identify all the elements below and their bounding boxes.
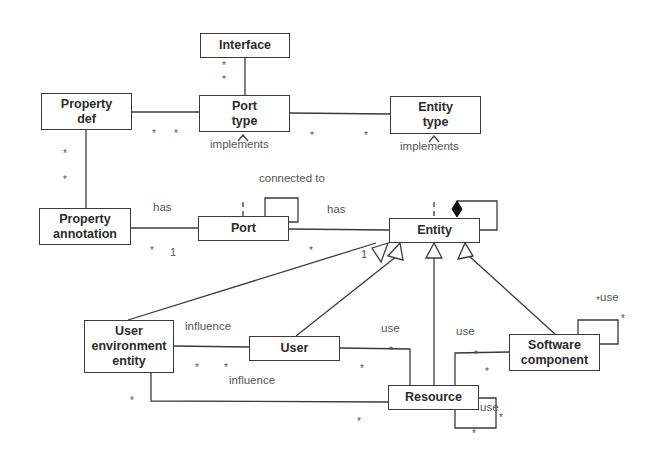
class-user: User [249, 336, 340, 361]
label-entity-type-implements: implements [400, 140, 459, 152]
label-influence-user: influence [185, 320, 231, 332]
label-port-type-implements: implements [210, 138, 269, 150]
mult-annotation-port-one: 1 [170, 246, 176, 258]
label-user-use: use [381, 322, 400, 334]
class-interface: Interface [200, 33, 290, 58]
label-port-entity-has: has [327, 203, 346, 215]
mult-interface-2: * [222, 74, 226, 85]
mult-porttype-entitytype-2: * [364, 130, 368, 141]
mult-propdef-annotation-2: * [63, 174, 67, 185]
class-port-type: Port type [199, 95, 290, 132]
mult-software-resource-2: * [485, 366, 489, 377]
uml-diagram: Interface Property def Port type Entity … [0, 0, 658, 459]
mult-userenv-resource-2: * [357, 416, 361, 427]
mult-resource-self-1: * [499, 412, 503, 423]
mult-propdef-porttype-1: * [152, 128, 156, 139]
mult-user-resource-1: * [389, 345, 393, 356]
mult-userenv-user-1: * [195, 362, 199, 373]
label-software-use: use [456, 325, 475, 337]
class-resource: Resource [388, 385, 479, 410]
mult-userenv-user-2: * [224, 362, 228, 373]
mult-port-entity-one: 1 [361, 248, 367, 260]
class-entity: Entity [389, 218, 480, 243]
mult-software-self-1: * [596, 295, 600, 306]
mult-propdef-annotation-1: * [63, 148, 67, 159]
mult-interface-1: * [222, 60, 226, 71]
class-property-annotation: Property annotation [39, 208, 131, 245]
label-influence-resource: influence [229, 374, 275, 386]
mult-software-resource-1: * [474, 349, 478, 360]
class-software-component: Software component [509, 334, 600, 371]
mult-software-self-2: * [621, 313, 625, 324]
mult-propdef-porttype-2: * [174, 128, 178, 139]
label-software-self-use: use [600, 291, 619, 303]
class-property-def: Property def [41, 93, 132, 130]
class-user-environment-entity: User environment entity [84, 320, 174, 373]
mult-userenv-resource-1: * [130, 395, 134, 406]
mult-annotation-port-many: * [150, 245, 154, 256]
mult-port-entity-many: * [309, 245, 313, 256]
mult-user-resource-2: * [360, 363, 364, 374]
label-resource-self-use: use [480, 401, 499, 413]
label-connected-to: connected to [259, 172, 325, 184]
class-port: Port [198, 216, 289, 241]
label-annotation-has: has [153, 201, 172, 213]
class-entity-type: Entity type [390, 96, 481, 134]
mult-resource-self-2: * [472, 428, 476, 439]
mult-porttype-entitytype-1: * [310, 130, 314, 141]
